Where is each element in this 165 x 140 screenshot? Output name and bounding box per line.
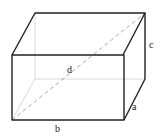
label-d: d (67, 64, 72, 75)
space-diagonal (12, 13, 145, 120)
label-c: c (149, 39, 154, 50)
label-a: a (132, 101, 137, 112)
label-b: b (55, 123, 60, 134)
prism-diagram: d c a b (0, 0, 165, 140)
